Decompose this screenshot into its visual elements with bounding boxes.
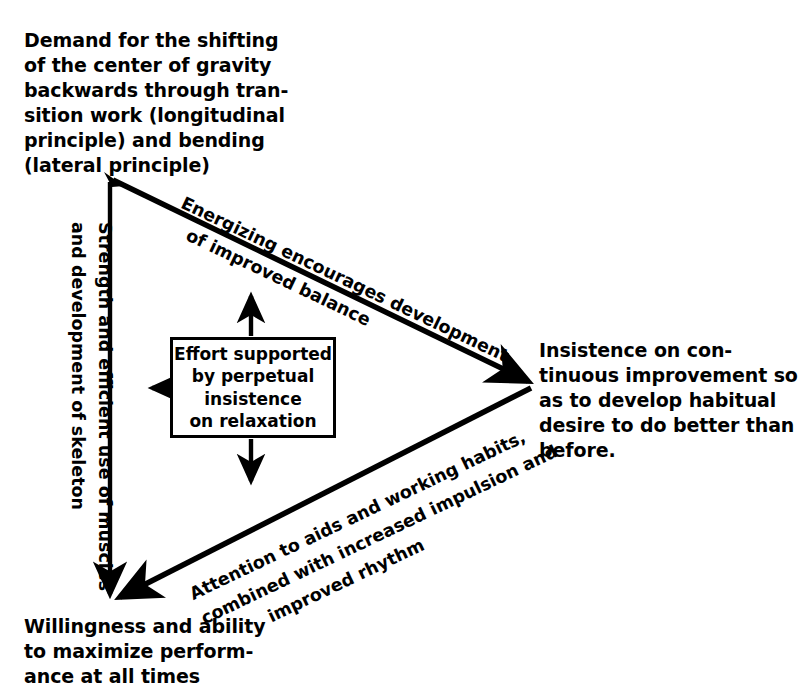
vertex-label-right: Insistence on con- tinuous improvement s… [539,338,798,463]
diagram-canvas: Demand for the shifting of the center of… [0,0,804,699]
center-box: Effort supported by perpetual insistence… [170,337,336,438]
center-box-label: Effort supported by perpetual insistence… [174,343,332,432]
edge-label-top-to-bottom: Strength and efficient use of muscles an… [64,222,118,591]
vertex-label-top: Demand for the shifting of the center of… [24,28,288,178]
